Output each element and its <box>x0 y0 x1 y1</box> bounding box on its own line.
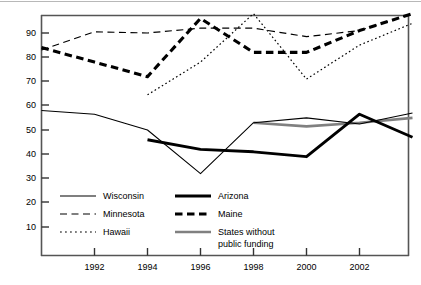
data-series-group <box>42 14 413 174</box>
y-tick-label: 80 <box>26 52 36 62</box>
y-axis-ticks <box>42 33 50 227</box>
legend-item-arizona: Arizona <box>175 191 249 201</box>
series-line-states-without-public-funding <box>254 118 413 126</box>
legend-item-states-without-public-funding: States without public funding <box>175 227 275 249</box>
y-axis-labels: 90 80 70 60 50 40 30 20 10 <box>26 28 36 232</box>
legend-label-states-without-public-funding: States without <box>218 227 275 237</box>
x-tick-label: 1998 <box>243 262 263 272</box>
x-tick-label: 1992 <box>84 262 104 272</box>
y-tick-label: 90 <box>26 28 36 38</box>
line-chart: 90 80 70 60 50 40 30 20 10 1992 1994 199… <box>0 0 421 285</box>
x-tick-label: 1996 <box>190 262 210 272</box>
legend-label-arizona: Arizona <box>218 191 249 201</box>
series-line-maine <box>42 14 413 77</box>
y-tick-label: 30 <box>26 173 36 183</box>
series-line-wisconsin <box>42 111 413 174</box>
x-axis-labels: 1992 1994 1996 1998 2000 2002 <box>84 262 369 272</box>
legend-label-minnesota: Minnesota <box>103 209 145 219</box>
y-tick-label: 10 <box>26 222 36 232</box>
chart-legend: Wisconsin Minnesota Hawaii Arizona Maine <box>60 191 275 249</box>
legend-label-states-without-public-funding-line2: public funding <box>218 239 274 249</box>
x-tick-label: 2000 <box>296 262 316 272</box>
x-tick-label: 2002 <box>349 262 369 272</box>
legend-item-wisconsin: Wisconsin <box>60 191 144 201</box>
legend-item-minnesota: Minnesota <box>60 209 145 219</box>
legend-label-hawaii: Hawaii <box>103 227 130 237</box>
plot-frame <box>41 15 409 256</box>
x-axis-ticks <box>95 248 360 256</box>
y-tick-label: 70 <box>26 76 36 86</box>
legend-item-hawaii: Hawaii <box>60 227 130 237</box>
series-line-minnesota <box>42 14 413 50</box>
legend-label-maine: Maine <box>218 209 243 219</box>
legend-item-maine: Maine <box>175 209 243 219</box>
legend-label-wisconsin: Wisconsin <box>103 191 144 201</box>
chart-canvas: 90 80 70 60 50 40 30 20 10 1992 1994 199… <box>0 0 421 285</box>
x-tick-label: 1994 <box>137 262 157 272</box>
y-tick-label: 60 <box>26 100 36 110</box>
y-tick-label: 40 <box>26 149 36 159</box>
y-tick-label: 50 <box>26 125 36 135</box>
y-tick-label: 20 <box>26 197 36 207</box>
